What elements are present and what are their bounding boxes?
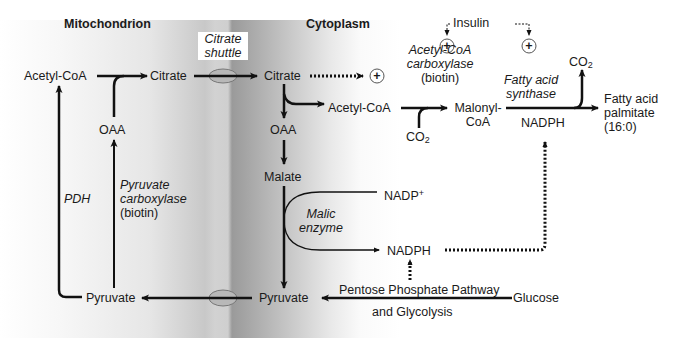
pyruvate-carboxylase-enzyme: Pyruvate carboxylase (biotin) bbox=[120, 178, 187, 220]
malonyl-coa: Malonyl-CoA bbox=[450, 101, 506, 129]
cyto-citrate: Citrate bbox=[264, 69, 301, 83]
cytoplasm-label: Cytoplasm bbox=[306, 17, 370, 31]
insulin-label: Insulin bbox=[451, 16, 491, 30]
glucose: Glucose bbox=[513, 291, 559, 305]
cyto-pyruvate: Pyruvate bbox=[259, 291, 308, 305]
fatty-acid-palmitate: Fatty acidpalmitate(16:0) bbox=[604, 92, 658, 134]
citrate-shuttle-label: Citrateshuttle bbox=[198, 32, 248, 60]
nadph-malic: NADPH bbox=[387, 244, 431, 258]
co2-output: CO2 bbox=[569, 55, 593, 72]
mito-acetyl-coa: Acetyl-CoA bbox=[24, 69, 87, 83]
co2-input: CO2 bbox=[406, 130, 430, 147]
nadp-plus: NADP+ bbox=[384, 186, 424, 203]
mito-oaa: OAA bbox=[99, 123, 125, 137]
nadph-fas: NADPH bbox=[521, 116, 565, 130]
malic-enzyme: Malicenzyme bbox=[296, 207, 346, 235]
cyto-acetyl-coa: Acetyl-CoA bbox=[328, 101, 391, 115]
glycolysis-label: and Glycolysis bbox=[372, 305, 453, 319]
acetyl-coa-carboxylase-enzyme: Acetyl-CoA carboxylase (biotin) bbox=[390, 43, 490, 85]
mito-citrate: Citrate bbox=[150, 69, 187, 83]
fatty-acid-synthase-enzyme: Fatty acidsynthase bbox=[496, 73, 566, 101]
malate: Malate bbox=[264, 170, 302, 184]
mito-pyruvate: Pyruvate bbox=[86, 291, 135, 305]
pdh-enzyme: PDH bbox=[64, 192, 90, 206]
plus-icon: + bbox=[523, 39, 535, 53]
ppp-label: Pentose Phosphate Pathway bbox=[339, 283, 500, 297]
plus-icon: + bbox=[371, 69, 383, 83]
mitochondrion-label: Mitochondrion bbox=[64, 17, 151, 31]
cyto-oaa: OAA bbox=[270, 123, 296, 137]
